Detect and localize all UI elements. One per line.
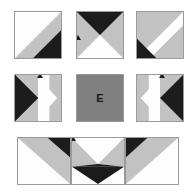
tile-middle-right-art bbox=[137, 75, 183, 121]
tile-bottom-left-art bbox=[18, 138, 70, 184]
tile-top-left-art bbox=[15, 12, 61, 58]
tile-bottom-right[interactable] bbox=[125, 137, 179, 185]
tile-middle-left[interactable] bbox=[14, 74, 62, 122]
tile-bottom-right-notch bbox=[125, 137, 130, 141]
tile-middle-left-art bbox=[15, 75, 61, 121]
tile-middle-left-notch bbox=[37, 74, 43, 78]
center-tile-label: E bbox=[77, 75, 123, 121]
tile-bottom-right-art bbox=[126, 138, 178, 184]
tile-top-right[interactable] bbox=[136, 11, 184, 59]
tile-bottom-center-notch bbox=[71, 137, 76, 141]
tile-top-center-art bbox=[77, 12, 123, 58]
tile-top-left[interactable] bbox=[14, 11, 62, 59]
tile-top-center-notch bbox=[76, 35, 81, 40]
tile-bottom-center-art bbox=[72, 138, 124, 184]
tile-center[interactable]: E bbox=[76, 74, 124, 122]
tile-bottom-left[interactable] bbox=[17, 137, 71, 185]
pattern-matrix-grid: E bbox=[0, 0, 195, 194]
tile-middle-right-notch bbox=[159, 74, 165, 78]
tile-top-right-art bbox=[137, 12, 183, 58]
tile-bottom-center[interactable] bbox=[71, 137, 125, 185]
tile-top-center[interactable] bbox=[76, 11, 124, 59]
tile-middle-right[interactable] bbox=[136, 74, 184, 122]
